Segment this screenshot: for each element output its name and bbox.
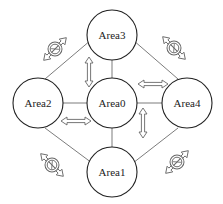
area-diagram: Area3 Area2 Area0 Area4 Area1: [0, 0, 223, 204]
blocked-exchange-icon: [158, 32, 191, 65]
node-area3: Area3: [87, 10, 137, 60]
node-label: Area4: [174, 97, 201, 109]
exchange-arrow-icon: [139, 108, 147, 138]
node-label: Area0: [99, 97, 126, 109]
node-area0: Area0: [87, 78, 137, 128]
node-area2: Area2: [13, 78, 63, 128]
exchange-arrow-icon: [138, 80, 168, 88]
node-area4: Area4: [162, 78, 212, 128]
node-area1: Area1: [87, 147, 137, 197]
exchange-arrow-icon: [85, 57, 93, 87]
blocked-exchange-icon: [36, 149, 69, 182]
node-label: Area2: [25, 97, 52, 109]
node-label: Area1: [99, 166, 126, 178]
node-label: Area3: [99, 29, 126, 41]
blocked-exchange-icon: [39, 33, 72, 66]
exchange-arrow-icon: [61, 117, 91, 125]
blocked-exchange-icon: [161, 146, 194, 179]
